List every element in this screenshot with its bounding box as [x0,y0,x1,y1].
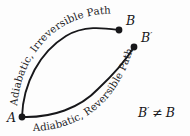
diagram-canvas: A B B′ Adiabatic, Irreversible Path Adia… [0,0,190,136]
node-label-b-prime-mark: ′ [150,31,152,41]
node-label-b-prime: B′ [140,30,152,45]
node-label-b-prime-base: B [140,30,150,45]
adiabatic-paths-figure: A B B′ Adiabatic, Irreversible Path Adia… [0,0,190,136]
reversible-path-label: Adiabatic, Reversible Path [32,47,135,134]
relation-right-symbol: B [165,105,175,120]
node-label-a: A [6,110,16,125]
reversible-path-label-text: Adiabatic, Reversible Path [32,47,135,134]
relation-operator: ≠ [152,105,162,120]
node-dot-a [19,114,26,121]
node-dot-b [116,27,123,34]
relation-left-prime: ′ [147,106,149,116]
node-label-b: B [125,13,135,28]
relation-left-symbol: B [137,105,147,120]
relation-annotation: B′≠B [137,105,175,120]
